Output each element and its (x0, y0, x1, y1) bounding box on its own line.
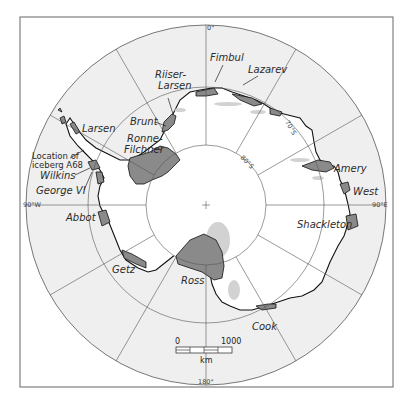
label-wilkins: Wilkins (40, 170, 76, 181)
label-cook: Cook (252, 321, 278, 332)
meridian-label-180: 180° (198, 378, 214, 386)
label-george-vi: George VI (36, 185, 86, 196)
label-shackleton: Shackleton (297, 219, 352, 230)
meridian-label-90w: 90°W (23, 201, 42, 209)
label-abbot: Abbot (65, 212, 97, 223)
label-ross: Ross (181, 275, 205, 286)
label-ronne-line1: Ronne- (127, 133, 163, 144)
antarctica-map: 0° 180° 90°W 90°E 70°S 80°S Fimbul Lazar… (0, 0, 411, 399)
label-west: West (353, 186, 379, 197)
label-lazarev: Lazarev (248, 64, 288, 75)
label-getz: Getz (112, 264, 136, 275)
label-fimbul: Fimbul (210, 52, 244, 63)
label-ronne-line2: Filchner (124, 144, 165, 155)
label-amery: Amery (333, 163, 368, 174)
label-riiser-line2: Larsen (158, 80, 192, 91)
label-riiser-line1: Riiser- (155, 69, 186, 80)
meridian-label-0: 0° (207, 24, 214, 32)
label-brunt: Brunt (130, 116, 159, 127)
meridian-label-90e: 90°E (372, 201, 388, 209)
scale-end: 1000 (221, 337, 241, 346)
label-iceberg-line2: iceberg A68 (32, 160, 83, 170)
scale-unit: km (200, 356, 213, 365)
scale-start: 0 (175, 337, 180, 346)
label-larsen: Larsen (82, 123, 116, 134)
